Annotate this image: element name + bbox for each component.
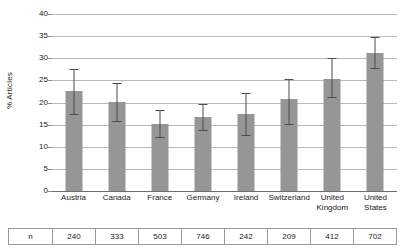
error-bar-cap-lower <box>198 130 207 131</box>
error-bar-cap-lower <box>155 137 164 138</box>
error-bar-cap-upper <box>371 37 380 38</box>
x-tick-label-line: Austria <box>52 193 95 203</box>
error-bar-line <box>332 58 333 96</box>
error-bar-cap-upper <box>328 58 337 59</box>
bar-group <box>354 0 397 192</box>
x-tick-label-line: France <box>138 193 181 203</box>
error-bar-cap-lower <box>371 68 380 69</box>
bar-group <box>268 0 311 192</box>
x-tick-label-line: States <box>354 203 397 213</box>
y-tick-label: 10 <box>39 143 48 151</box>
bar-group <box>95 0 138 192</box>
bar-group <box>311 0 354 192</box>
error-bar-cap-lower <box>285 124 294 125</box>
error-bar-cap-upper <box>112 83 121 84</box>
sample-size-cell: 503 <box>139 229 182 244</box>
error-bar-line <box>159 110 160 137</box>
error-bar-line <box>289 79 290 124</box>
error-bar-cap-lower <box>242 135 251 136</box>
chart-figure: % Articles 0510152025303540 AustriaCanad… <box>0 0 405 251</box>
sample-size-cell: 242 <box>225 229 268 244</box>
x-tick-label-line: Switzerland <box>268 193 311 203</box>
y-tick-label: 25 <box>39 76 48 84</box>
plot-area: % Articles 0510152025303540 <box>0 0 405 200</box>
x-tick-label: UnitedStates <box>354 193 397 213</box>
error-bar-cap-upper <box>285 79 294 80</box>
y-tick-label: 30 <box>39 54 48 62</box>
error-bar-cap-upper <box>198 104 207 105</box>
x-tick-label: UnitedKingdom <box>311 193 354 213</box>
x-tick-label: France <box>138 193 181 203</box>
x-tick-label-line: United <box>311 193 354 203</box>
bar-group <box>138 0 181 192</box>
y-tick-label: 15 <box>39 121 48 129</box>
error-bar-cap-lower <box>69 114 78 115</box>
x-tick-label: Ireland <box>225 193 268 203</box>
error-bar-line <box>246 93 247 135</box>
error-bar-cap-lower <box>112 121 121 122</box>
error-bar-cap-lower <box>328 97 337 98</box>
sample-size-cell: 240 <box>53 229 96 244</box>
x-tick-label-line: Kingdom <box>311 203 354 213</box>
sample-size-cell: 209 <box>268 229 311 244</box>
y-axis-tick-labels: 0510152025303540 <box>0 0 50 200</box>
x-tick-label: Canada <box>95 193 138 203</box>
error-bar-cap-upper <box>155 110 164 111</box>
y-tick-label: 35 <box>39 32 48 40</box>
sample-size-table: n 240 333 503 746 242 209 412 702 <box>8 228 397 245</box>
error-bar-line <box>116 83 117 121</box>
x-tick-label: Austria <box>52 193 95 203</box>
bar-group <box>52 0 95 192</box>
bar-group <box>181 0 224 192</box>
sample-size-header: n <box>9 229 53 244</box>
sample-size-cell: 702 <box>354 229 396 244</box>
sample-size-cell: 333 <box>96 229 139 244</box>
bar-series <box>52 0 397 192</box>
error-bar-cap-upper <box>69 69 78 70</box>
error-bar-cap-upper <box>242 93 251 94</box>
x-tick-label: Switzerland <box>268 193 311 203</box>
error-bar-line <box>73 69 74 115</box>
error-bar-line <box>375 37 376 68</box>
x-tick-label-line: Ireland <box>225 193 268 203</box>
bar <box>367 53 384 191</box>
bar-group <box>225 0 268 192</box>
x-tick-label-line: United <box>354 193 397 203</box>
sample-size-cell: 746 <box>182 229 225 244</box>
error-bar-line <box>202 104 203 130</box>
y-tick-label: 20 <box>39 99 48 107</box>
x-tick-label: Germany <box>181 193 224 203</box>
x-tick-label-line: Canada <box>95 193 138 203</box>
x-axis-category-labels: AustriaCanadaFranceGermanyIrelandSwitzer… <box>52 193 397 223</box>
x-tick-label-line: Germany <box>181 193 224 203</box>
sample-size-cell: 412 <box>311 229 354 244</box>
y-tick-label: 40 <box>39 10 48 18</box>
